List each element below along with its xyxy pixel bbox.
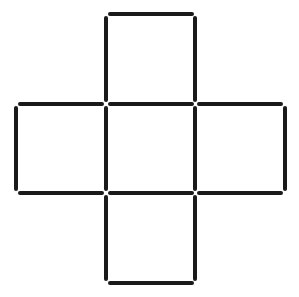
matchstick-cross-diagram [0, 0, 299, 297]
